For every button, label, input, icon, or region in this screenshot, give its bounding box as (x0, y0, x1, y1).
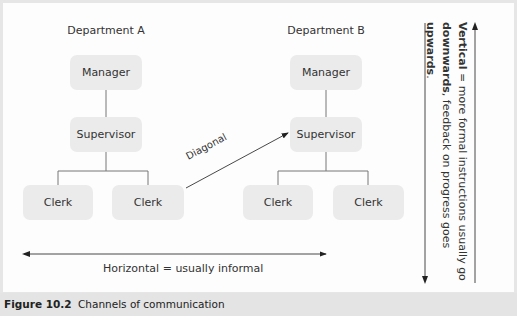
figure-title: Channels of communication (78, 298, 225, 310)
department-b-label: Department B (266, 24, 386, 37)
dept-b-supervisor-box: Supervisor (290, 117, 362, 152)
vertical-text-3: . (424, 75, 437, 79)
diagonal-arrow (186, 133, 288, 188)
vertical-text-1: = more formal instructions usually go (456, 70, 469, 281)
dept-b-clerk-box: Clerk (243, 185, 313, 220)
dept-a-clerk-box: Clerk (112, 185, 184, 220)
horizontal-label: Horizontal = usually informal (103, 262, 363, 275)
department-a-label: Department A (46, 24, 166, 37)
dept-b-clerk-box: Clerk (333, 185, 404, 220)
dept-a-clerk-box: Clerk (23, 185, 93, 220)
dept-b-manager-box: Manager (290, 55, 362, 90)
vertical-bold: Vertical (456, 22, 469, 70)
vertical-label: Vertical = more formal instructions usua… (436, 22, 470, 284)
vertical-text-2: , feedback on progress goes (440, 93, 453, 248)
downwards-bold: downwards (440, 22, 453, 93)
figure-caption: Figure 10.2 Channels of communication (0, 293, 517, 316)
dept-a-supervisor-box: Supervisor (70, 117, 142, 152)
figure-number: Figure 10.2 (4, 298, 72, 310)
dept-a-manager-box: Manager (70, 55, 142, 90)
upwards-bold: upwards (424, 22, 437, 75)
